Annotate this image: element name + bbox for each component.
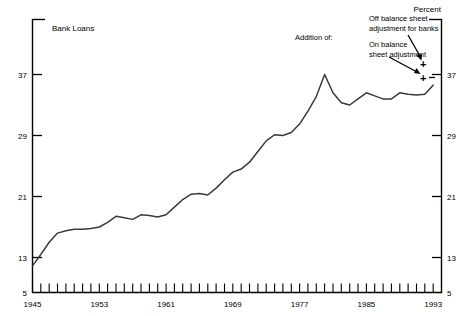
x-ticks — [33, 284, 434, 293]
y-tick-label-right-5: 5 — [447, 289, 452, 298]
y-tick-label-right-13: 13 — [447, 254, 456, 263]
x-tick-label-1993: 1993 — [424, 300, 442, 309]
chart-title-bank-loans: Bank Loans — [52, 24, 94, 33]
annotation-off-balance-line2: adjustment for banks — [369, 24, 439, 33]
chart-figure: 37 29 21 13 5 37 29 21 13 5 194519531961… — [0, 0, 474, 316]
y-ticks-left — [33, 75, 42, 258]
annotation-addition-of: Addition of: — [295, 33, 333, 42]
y-tick-label-right-37: 37 — [447, 71, 456, 80]
marker-plus-off-balance: + — [420, 58, 426, 70]
y-tick-label-left-37: 37 — [18, 71, 27, 80]
x-tick-label-1945: 1945 — [24, 300, 42, 309]
x-tick-label-1953: 1953 — [90, 300, 108, 309]
axis-unit-label-percent: Percent — [413, 5, 441, 14]
x-tick-labels: 1945195319611969197719851993 — [24, 300, 443, 309]
y-tick-label-left-21: 21 — [18, 193, 27, 202]
data-line-bank-loans — [33, 75, 434, 266]
arrow-on-balance — [389, 57, 421, 74]
annotation-on-balance-line2: sheet adjustment — [369, 50, 427, 59]
y-ticks-right — [432, 75, 441, 258]
y-tick-label-left-5: 5 — [23, 289, 28, 298]
annotation-on-balance-line1: On balance — [369, 40, 407, 49]
y-tick-label-left-13: 13 — [18, 254, 27, 263]
y-tick-label-right-21: 21 — [447, 193, 456, 202]
annotation-off-balance-line1: Off balance sheet — [369, 14, 429, 23]
x-tick-label-1969: 1969 — [224, 300, 242, 309]
x-tick-label-1977: 1977 — [291, 300, 309, 309]
y-tick-label-right-29: 29 — [447, 132, 456, 141]
marker-plus-on-balance: + — [420, 72, 426, 84]
chart-svg: 37 29 21 13 5 37 29 21 13 5 194519531961… — [0, 0, 474, 316]
x-tick-label-1961: 1961 — [157, 300, 175, 309]
y-tick-label-left-29: 29 — [18, 132, 27, 141]
x-tick-label-1985: 1985 — [358, 300, 376, 309]
